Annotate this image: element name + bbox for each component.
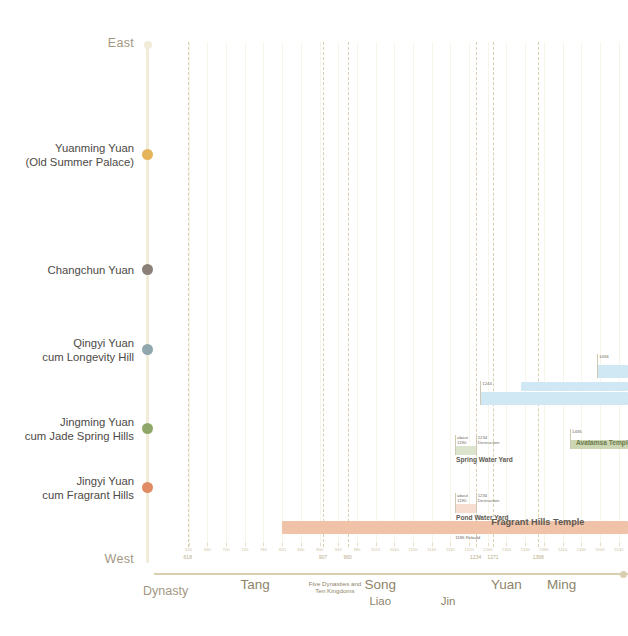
decade-tick-label: 1060 xyxy=(390,547,399,552)
axis-label-west: West xyxy=(0,552,134,566)
garden-name: Changchun Yuan xyxy=(48,264,134,276)
bar-qingyi-bar-1244[interactable] xyxy=(480,392,628,405)
annotation-label: 1494 xyxy=(599,354,609,359)
decade-tickmark xyxy=(245,543,246,546)
decade-tick-label: 1540 xyxy=(614,547,623,552)
annotation-rule xyxy=(455,493,456,513)
decade-tick-label: 1180 xyxy=(446,547,455,552)
annotation-label: 1234Destruction xyxy=(478,435,500,445)
dynasty-boundary-line xyxy=(493,42,494,547)
decade-gridline xyxy=(320,42,321,547)
decade-tickmark xyxy=(432,543,433,546)
decade-tickmark xyxy=(506,543,507,546)
decade-tickmark xyxy=(320,543,321,546)
decade-tick-label: 1340 xyxy=(521,547,530,552)
garden-dot-changchun-yuan[interactable] xyxy=(142,264,153,275)
dynasty-tick-label: 1368 xyxy=(533,554,544,560)
annotation-rule xyxy=(597,354,598,378)
decade-tickmark xyxy=(450,543,451,546)
decade-tickmark xyxy=(544,543,545,546)
plot-area: 14941244Avatamsa Temple1436Spring Water … xyxy=(170,42,628,547)
annotation-line: 1244 xyxy=(482,381,492,386)
decade-tickmark xyxy=(207,543,208,546)
garden-dot-jingming-yuan[interactable] xyxy=(142,423,153,434)
decade-gridline xyxy=(506,42,507,547)
decade-tickmark xyxy=(563,543,564,546)
bar-qingyi-bar-1494[interactable] xyxy=(597,365,628,378)
decade-tick-label: 1260 xyxy=(483,547,492,552)
annotation-label: 1186 Rebuild xyxy=(455,535,480,540)
decade-gridline xyxy=(450,42,451,547)
annotation-line: 1190 xyxy=(457,498,466,503)
dynasty-label-line: Song xyxy=(365,577,397,592)
decade-gridline xyxy=(263,42,264,547)
bar-title-spring-water-yard: Spring Water Yard xyxy=(456,456,513,463)
annotation-rule xyxy=(476,435,477,455)
garden-label: Jingming Yuancum Jade Spring Hills xyxy=(0,416,134,443)
annotation-line: 1190 xyxy=(457,440,466,445)
bar-pond-water-yard[interactable] xyxy=(455,504,476,513)
annotation-line: Destruction xyxy=(478,440,500,445)
garden-dot-jingyi-yuan[interactable] xyxy=(142,482,153,493)
decade-tickmark xyxy=(226,543,227,546)
timeline-chart: East West Yuanming Yuan(Old Summer Palac… xyxy=(0,0,628,636)
annotation-line: 1436 xyxy=(572,429,582,434)
decade-gridline xyxy=(544,42,545,547)
dynasty-axis-cap xyxy=(620,571,627,578)
annotation-line: 1494 xyxy=(599,354,609,359)
decade-tick-label: 1020 xyxy=(371,547,380,552)
annotation-label: 1244 xyxy=(482,381,492,386)
decade-tick-label: 740 xyxy=(241,547,248,552)
annotation-label: 1436 xyxy=(572,429,582,434)
decade-gridline xyxy=(413,42,414,547)
decade-gridline xyxy=(376,42,377,547)
dynasty-tick-label: 618 xyxy=(184,554,192,560)
annotation-line: 1186 Rebuild xyxy=(455,535,480,540)
decade-tickmark xyxy=(488,543,489,546)
decade-tick-label: 860 xyxy=(297,547,304,552)
dynasty-boundary-line xyxy=(188,42,189,547)
dynasty-label-liao: Liao xyxy=(369,595,391,607)
decade-tickmark xyxy=(394,543,395,546)
garden-label: Yuanming Yuan(Old Summer Palace) xyxy=(0,142,134,169)
dynasty-tick-label: 907 xyxy=(319,554,327,560)
bar-title-fragrant-hills-temple: Fragrant Hills Temple xyxy=(491,517,584,527)
dynasty-tick-label: 1271 xyxy=(487,554,498,560)
decade-tick-label: 820 xyxy=(279,547,286,552)
garden-dot-qingyi-yuan[interactable] xyxy=(142,344,153,355)
decade-tickmark xyxy=(357,543,358,546)
dynasty-label-jin: Jin xyxy=(441,595,456,607)
decade-gridline xyxy=(488,42,489,547)
decade-tickmark xyxy=(282,543,283,546)
dynasty-label-line: Ming xyxy=(547,577,576,592)
decade-tickmark xyxy=(263,543,264,546)
decade-tick-label: 900 xyxy=(316,547,323,552)
decade-tickmark xyxy=(469,543,470,546)
dynasty-axis-line xyxy=(154,573,628,575)
bar-qingyi-bar-mid[interactable] xyxy=(521,382,628,391)
dynasty-label-tang: Tang xyxy=(240,577,269,592)
garden-label: Jingyi Yuancum Fragrant Hills xyxy=(0,475,134,502)
decade-gridline xyxy=(189,42,190,547)
dynasty-tick-label: 1234 xyxy=(470,554,481,560)
garden-dot-yuanming-yuan[interactable] xyxy=(142,149,153,160)
dynasty-boundary-line xyxy=(348,42,349,547)
annotation-label: about1190 xyxy=(457,493,468,503)
dynasty-label-five-dynasties-and: Five Dynasties andTen Kingdoms xyxy=(309,580,362,595)
decade-tick-label: 700 xyxy=(223,547,230,552)
dynasty-label-line: Ten Kingdoms xyxy=(315,587,354,594)
decade-tick-label: 1500 xyxy=(595,547,604,552)
bar-spring-water-yard[interactable] xyxy=(455,446,476,455)
decade-gridline xyxy=(525,42,526,547)
garden-subname: cum Jade Spring Hills xyxy=(25,430,134,442)
dynasty-label-line: Yuan xyxy=(491,577,522,592)
decade-gridline xyxy=(432,42,433,547)
decade-gridline xyxy=(207,42,208,547)
decade-tickmark xyxy=(619,543,620,546)
decade-tickmark xyxy=(301,543,302,546)
annotation-rule xyxy=(455,435,456,455)
dynasty-label-song: Song xyxy=(365,577,397,592)
decade-tick-label: 940 xyxy=(335,547,342,552)
dynasty-boundary-line xyxy=(323,42,324,547)
decade-tick-label: 980 xyxy=(353,547,360,552)
